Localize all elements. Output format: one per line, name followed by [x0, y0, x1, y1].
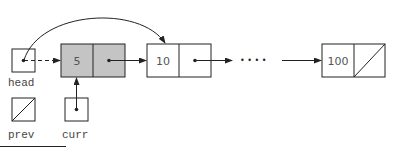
node-100-value: 100	[328, 55, 349, 68]
linked-list-diagram: head 5 10 • • • • 100 prev curr	[0, 0, 397, 153]
node-100: 100	[322, 44, 385, 77]
curr-pointer: curr	[62, 98, 88, 141]
node-10-value: 10	[156, 55, 170, 68]
head-pointer: head	[8, 49, 35, 89]
prev-pointer: prev	[8, 98, 35, 141]
ellipsis: • • • •	[240, 56, 267, 65]
node-5-value: 5	[74, 55, 81, 68]
head-label: head	[8, 77, 34, 89]
prev-label: prev	[8, 129, 35, 141]
curr-label: curr	[62, 129, 88, 141]
